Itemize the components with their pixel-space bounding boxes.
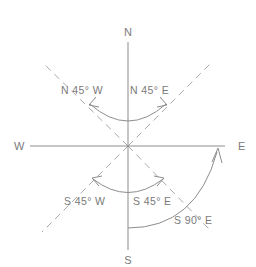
s45e-bearing-label: S 45° E: [133, 195, 172, 207]
ne-ray-dashed-line: [128, 62, 212, 146]
compass-diagram-canvas: N S W E N 45° W N 45° E S 45° W S 45° E …: [0, 0, 256, 267]
south-label: S: [124, 254, 131, 266]
west-label: W: [14, 140, 25, 152]
s90e-arc-arrowhead-icon: [212, 148, 222, 163]
sw-ray-dashed-line: [42, 146, 128, 232]
n45e-bearing-label: N 45° E: [130, 84, 169, 96]
east-label: E: [238, 140, 245, 152]
north-east-arc-arrowhead-icon: [157, 97, 167, 107]
s45w-bearing-label: S 45° W: [64, 195, 105, 207]
compass-bearing-diagram: N S W E N 45° W N 45° E S 45° W S 45° E …: [0, 0, 256, 267]
nw-ray-dashed-line: [42, 62, 128, 146]
north-west-arc-arrowhead-icon: [89, 97, 99, 107]
n45w-bearing-label: N 45° W: [61, 84, 103, 96]
s90e-bearing-label: S 90° E: [174, 214, 213, 226]
north-label: N: [124, 26, 132, 38]
